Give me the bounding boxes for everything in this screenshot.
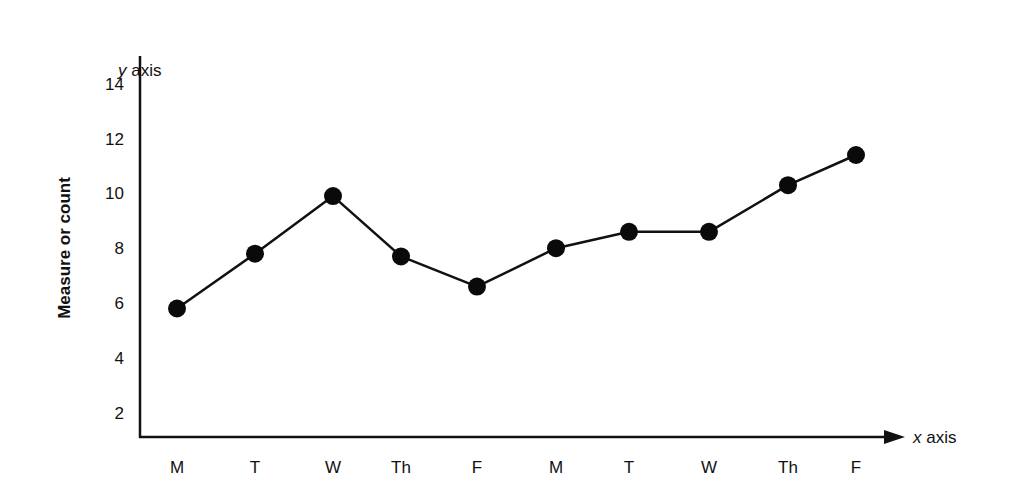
- x-axis-title: x axis: [912, 428, 956, 447]
- x-axis-title-rest: axis: [922, 428, 957, 447]
- data-markers: [168, 146, 865, 318]
- y-tick-label: 12: [105, 130, 124, 149]
- data-point-marker: [468, 278, 486, 296]
- data-point-marker: [847, 146, 865, 164]
- x-category-label: F: [851, 458, 861, 477]
- data-point-marker: [779, 176, 797, 194]
- y-tick-labels: 2468101214: [105, 75, 124, 423]
- y-axis-label: Measure or count: [55, 177, 74, 319]
- x-category-label: M: [170, 458, 184, 477]
- line-chart: y axis Measure or count 2468101214 x axi…: [0, 0, 1017, 499]
- x-category-label: T: [624, 458, 634, 477]
- x-axis-title-var: x: [912, 428, 922, 447]
- data-point-marker: [168, 300, 186, 318]
- x-category-label: W: [325, 458, 341, 477]
- data-point-marker: [324, 187, 342, 205]
- data-point-marker: [547, 239, 565, 257]
- x-category-label: M: [549, 458, 563, 477]
- data-point-marker: [246, 245, 264, 263]
- data-series-line: [177, 155, 856, 309]
- x-category-label: W: [701, 458, 717, 477]
- y-tick-label: 8: [115, 239, 124, 258]
- y-tick-label: 6: [115, 294, 124, 313]
- y-tick-label: 14: [105, 75, 124, 94]
- y-tick-label: 10: [105, 184, 124, 203]
- x-category-label: F: [472, 458, 482, 477]
- y-tick-label: 2: [115, 404, 124, 423]
- y-axis-title-rest: axis: [127, 61, 162, 80]
- x-category-labels: MTWThFMTWThF: [170, 458, 861, 477]
- x-category-label: T: [250, 458, 260, 477]
- data-point-marker: [620, 223, 638, 241]
- data-point-marker: [392, 247, 410, 265]
- y-tick-label: 4: [115, 349, 124, 368]
- x-category-label: Th: [778, 458, 798, 477]
- x-axis-arrow-icon: [884, 430, 905, 444]
- x-category-label: Th: [391, 458, 411, 477]
- data-point-marker: [700, 223, 718, 241]
